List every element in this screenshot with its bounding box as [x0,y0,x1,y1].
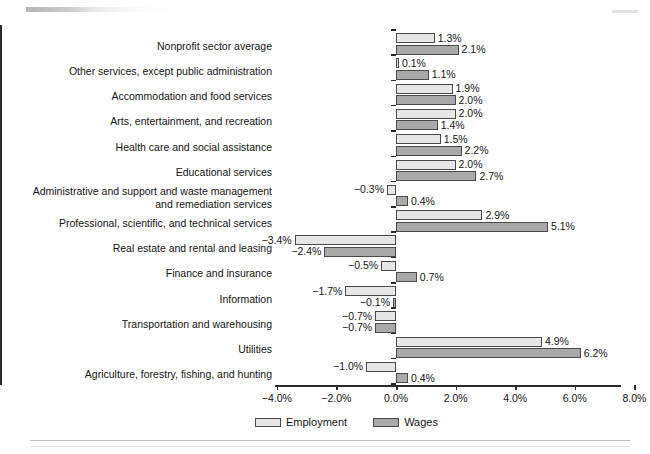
category-axis-tick [391,156,396,158]
x-axis-tick [396,385,398,390]
x-axis-tick-label: 6.0% [563,392,587,404]
category-axis-tick [391,307,396,309]
legend-swatch-wages [373,418,399,427]
bar-value-label: 0.7% [420,272,444,283]
bar-value-label: 2.0% [459,159,483,170]
legend-label: Wages [404,416,438,428]
bar-value-label: 1.4% [441,120,465,131]
scan-artifact-top-left [26,7,176,12]
bar-wages [396,120,438,130]
bar-value-label: −0.1% [360,297,390,308]
bar-employment [396,109,456,119]
category-axis-tick [391,54,396,56]
x-axis-tick [277,385,279,390]
category-axis-tick [391,181,396,183]
bar-value-label: 2.0% [459,108,483,119]
x-axis-tick-label: 2.0% [444,392,468,404]
x-axis-tick-label: 8.0% [622,392,646,404]
x-axis-tick-label: 4.0% [503,392,527,404]
legend-item-wages: Wages [373,416,438,428]
bar-wages [396,146,462,156]
category-axis-tick [391,282,396,284]
x-axis-tick-label: −4.0% [262,392,292,404]
category-axis-tick [391,105,396,107]
category-axis-tick [391,80,396,82]
bar-value-label: −0.3% [354,184,384,195]
chart-legend: EmploymentWages [255,414,464,430]
bar-value-label: 1.9% [456,83,480,94]
bar-employment [396,337,542,347]
bar-value-label: 1.1% [432,69,456,80]
bar-value-label: 2.1% [462,44,486,55]
x-axis-tick [634,385,636,390]
category-axis-tick [391,257,396,259]
x-axis-tick [336,385,338,390]
bar-employment [345,286,396,296]
bar-wages [396,45,459,55]
scan-artifact-top-right [612,10,638,13]
category-axis-tick [391,333,396,335]
bar-wages [396,171,476,181]
page-divider-rule-shadow [30,446,630,447]
x-axis-tick [515,385,517,390]
bar-wages [396,196,408,206]
category-axis-tick [391,231,396,233]
legend-label: Employment [286,416,347,428]
bar-value-label: 2.9% [485,210,509,221]
bar-employment [396,33,435,43]
bar-employment [366,362,396,372]
bar-wages [396,373,408,383]
bar-employment [295,235,396,245]
x-axis-tick-label: 0.0% [384,392,408,404]
bar-value-label: 2.7% [479,171,503,182]
category-axis-tick [391,29,396,31]
bar-wages [396,348,581,358]
bar-value-label: 1.3% [438,33,462,44]
bar-wages [375,323,396,333]
bar-wages [396,95,456,105]
legend-swatch-employment [255,418,281,427]
bar-value-label: 4.9% [545,336,569,347]
x-axis-tick-label: −2.0% [321,392,351,404]
bar-wages [396,70,429,80]
page-divider-rule [30,440,630,441]
bar-employment [396,210,482,220]
bar-wages [393,298,396,308]
bar-value-label: 0.4% [411,373,435,384]
bar-wages [396,272,417,282]
bar-value-label: −1.7% [312,286,342,297]
bar-wages [396,222,548,232]
plot-area: 1.3%2.1%0.1%1.1%1.9%2.0%2.0%1.4%1.5%2.2%… [0,25,650,390]
bar-value-label: 1.5% [444,134,468,145]
x-axis-tick [575,385,577,390]
bar-employment [381,261,396,271]
bar-value-label: 0.1% [402,58,426,69]
legend-item-employment: Employment [255,416,347,428]
bar-wages [324,247,396,257]
x-axis-line [275,385,621,387]
category-axis-tick [391,206,396,208]
bar-value-label: −3.4% [262,235,292,246]
bar-value-label: −0.5% [348,260,378,271]
bar-employment [387,185,396,195]
bar-value-label: −0.7% [342,322,372,333]
bar-value-label: 6.2% [584,348,608,359]
bar-value-label: −0.7% [342,311,372,322]
bar-employment [396,84,453,94]
bar-value-label: −1.0% [333,361,363,372]
bar-employment [375,311,396,321]
x-axis-tick [456,385,458,390]
category-axis-tick [391,130,396,132]
zero-axis-line [0,25,2,385]
bar-value-label: 0.4% [411,196,435,207]
bar-value-label: 2.2% [465,145,489,156]
category-axis-tick [391,358,396,360]
bar-value-label: −2.4% [291,246,321,257]
x-axis: −4.0%−2.0%0.0%2.0%4.0%6.0%8.0% [0,385,650,409]
bar-employment [396,58,399,68]
chart-figure: Nonprofit sector averageOther services, … [0,0,650,454]
bar-value-label: 2.0% [459,95,483,106]
bar-employment [396,134,441,144]
bar-employment [396,160,456,170]
bar-value-label: 5.1% [551,221,575,232]
